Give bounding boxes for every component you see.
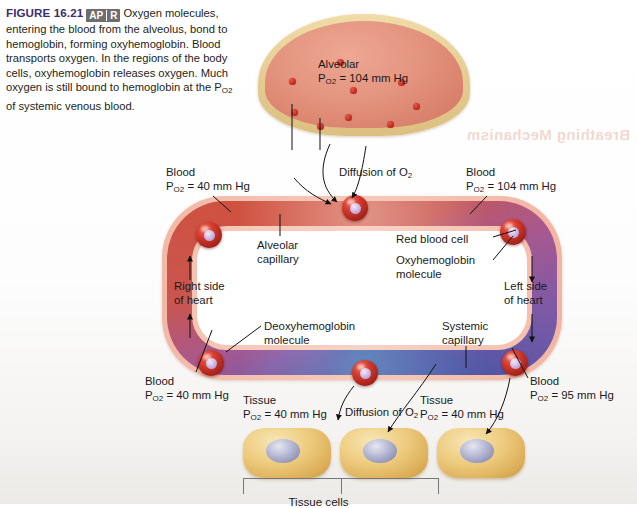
page-showthrough-artifact: Breathing Mechanism [455, 126, 630, 146]
caption-text-part2: of systemic venous blood. [6, 100, 135, 112]
rbc-highlight [505, 223, 513, 229]
tissue-cell-nucleus [460, 439, 494, 463]
deoxyhemoglobin-label: Deoxyhemoglobin molecule [264, 320, 355, 347]
alveolar-capillary-label: Alveolar capillary [257, 239, 299, 266]
tissue-po2-left-label: Tissue PO2 = 40 mm Hg [243, 394, 327, 425]
tissue-cell-nucleus [266, 439, 300, 463]
diffusion-of-o2-top-label: Diffusion of O2 [339, 166, 412, 183]
blood-po2-upper-right-label: Blood PO2 = 104 mm Hg [466, 166, 556, 197]
red-blood-cell [198, 350, 224, 376]
caption-po2-subscript: O2 [222, 87, 233, 96]
red-blood-cell [342, 195, 368, 221]
oxygen-molecule-dot [387, 121, 394, 128]
blood-po2-lower-left-label: Blood PO2 = 40 mm Hg [145, 375, 229, 406]
left-side-of-heart-label: Left side of heart [504, 280, 547, 307]
arrow-diffusion-top-a [323, 144, 337, 202]
apr-badge: APR [86, 9, 120, 22]
oxygen-molecule-dot [317, 123, 324, 130]
alveolar-po2-label: Alveolar PO2 = 104 mm Hg [318, 58, 408, 89]
rbc-highlight [347, 199, 355, 205]
rbc-highlight [201, 226, 209, 232]
blood-po2-upper-left-label: Blood PO2 = 40 mm Hg [166, 166, 250, 197]
oxygen-molecule-dot [291, 109, 298, 116]
oxygen-molecule-dot [345, 114, 352, 121]
red-blood-cell [500, 219, 526, 245]
red-blood-cell [502, 350, 528, 376]
oxygen-molecule-dot [289, 78, 296, 85]
figure-number: FIGURE 16.21 [6, 6, 83, 19]
tissue-cells-bracket [243, 478, 439, 494]
rbc-highlight [203, 354, 211, 360]
blood-po2-lower-right-label: Blood PO2 = 95 mm Hg [530, 375, 614, 406]
tissue-cell [340, 428, 428, 478]
apr-badge-r: R [106, 10, 120, 21]
tissue-cells-label: Tissue cells [0, 495, 637, 508]
figure-caption: FIGURE 16.21APROxygen molecules, enterin… [6, 6, 234, 114]
diffusion-of-o2-bottom-label: Diffusion of O2 [345, 406, 418, 423]
red-blood-cell-label: Red blood cell [396, 233, 468, 247]
apr-badge-ap: AP [86, 10, 106, 21]
tissue-cell-nucleus [363, 439, 397, 463]
rbc-highlight [357, 364, 365, 370]
tissue-cell [437, 428, 525, 478]
right-side-of-heart-label: Right side of heart [174, 280, 225, 307]
oxygen-molecule-dot [413, 103, 420, 110]
tissue-po2-right-label: Tissue PO2 = 40 mm Hg [420, 394, 504, 425]
tissue-cell [243, 428, 331, 478]
systemic-capillary-label: Systemic capillary [442, 320, 488, 347]
rbc-highlight [507, 354, 515, 360]
red-blood-cell [196, 222, 222, 248]
oxyhemoglobin-label: Oxyhemoglobin molecule [396, 254, 475, 281]
bracket-stem [341, 479, 342, 494]
red-blood-cell [352, 360, 378, 386]
